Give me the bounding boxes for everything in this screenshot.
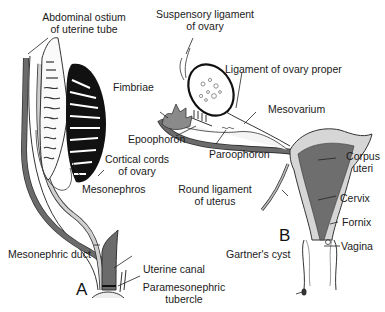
label-line-1: Paramesonephric	[142, 281, 226, 293]
label-line-2: uteri	[342, 162, 384, 174]
label-mesonephric-duct: Mesonephric duct	[8, 248, 91, 260]
label-ligament-of-ovary-proper: Ligament of ovary proper	[225, 63, 342, 75]
label-line-2: of ovary	[150, 20, 260, 32]
label-vagina: Vagina	[341, 240, 373, 252]
label-line-2: tubercle	[142, 293, 226, 305]
label-uterine-canal: Uterine canal	[143, 263, 205, 275]
label-line-1: Round ligament	[172, 183, 258, 195]
label-fornix: Fornix	[342, 216, 371, 228]
label-corpus-uteri: Corpus uteri	[342, 150, 384, 174]
label-paroophoron: Paroophoron	[209, 148, 270, 160]
label-line-1: Suspensory ligament	[150, 8, 260, 20]
label-abdominal-ostium: Abdominal ostium of uterine tube	[30, 11, 138, 35]
label-line-1: Corpus	[342, 150, 384, 162]
label-paramesonephric-tubercle: Paramesonephric tubercle	[142, 281, 226, 305]
label-round-ligament: Round ligament of uterus	[172, 183, 258, 207]
label-line-2: of ovary	[100, 165, 174, 177]
label-line-1: Abdominal ostium	[30, 11, 138, 23]
label-fimbriae: Fimbriae	[113, 81, 154, 93]
label-line-2: of uterus	[172, 195, 258, 207]
label-cortical-cords: Cortical cords of ovary	[100, 153, 174, 177]
label-mesonephros: Mesonephros	[82, 183, 146, 195]
embryology-diagram: Abdominal ostium of uterine tube Cortica…	[0, 0, 385, 312]
label-suspensory-ligament: Suspensory ligament of ovary	[150, 8, 260, 32]
label-gartners-cyst: Gartner's cyst	[226, 248, 290, 260]
panel-letter-b: B	[279, 226, 290, 246]
label-cervix: Cervix	[340, 192, 370, 204]
label-line-2: of uterine tube	[30, 23, 138, 35]
label-epoophoron: Epoophoron	[128, 133, 185, 145]
label-line-1: Cortical cords	[100, 153, 174, 165]
label-mesovarium: Mesovarium	[268, 103, 325, 115]
panel-letter-a: A	[76, 280, 87, 300]
